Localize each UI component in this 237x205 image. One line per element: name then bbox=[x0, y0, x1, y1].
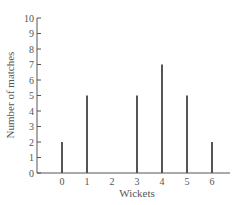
x-tick-label: 0 bbox=[60, 176, 65, 187]
y-tick-label: 9 bbox=[29, 28, 34, 39]
y-tick-label: 3 bbox=[29, 121, 34, 132]
x-tick-label: 4 bbox=[160, 176, 165, 187]
y-tick-label: 1 bbox=[29, 152, 34, 163]
x-axis-label: Wickets bbox=[119, 187, 155, 199]
x-tick-label: 1 bbox=[85, 176, 90, 187]
x-tick-label: 2 bbox=[110, 176, 115, 187]
x-axis-ticks: 0123456 bbox=[60, 176, 215, 187]
wickets-line-chart: 012345678910 0123456 Wickets Number of m… bbox=[0, 0, 237, 205]
y-tick-label: 7 bbox=[29, 59, 34, 70]
x-tick-label: 3 bbox=[135, 176, 140, 187]
y-tick-label: 8 bbox=[29, 44, 34, 55]
bars bbox=[62, 65, 212, 174]
y-axis-ticks: 012345678910 bbox=[24, 13, 41, 179]
y-tick-label: 4 bbox=[29, 106, 34, 117]
y-tick-label: 6 bbox=[29, 75, 34, 86]
x-tick-label: 5 bbox=[185, 176, 190, 187]
y-tick-label: 0 bbox=[29, 168, 34, 179]
y-axis-label: Number of matches bbox=[4, 52, 16, 139]
y-tick-label: 5 bbox=[29, 90, 34, 101]
x-tick-label: 6 bbox=[210, 176, 215, 187]
y-tick-label: 10 bbox=[24, 13, 34, 24]
y-tick-label: 2 bbox=[29, 137, 34, 148]
